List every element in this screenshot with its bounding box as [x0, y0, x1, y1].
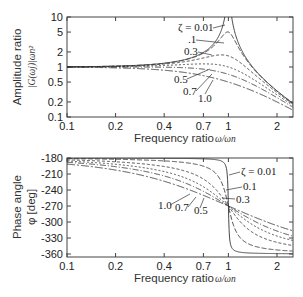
- x-tick-label: 2: [274, 120, 280, 132]
- x-tick-label: 0.7: [196, 260, 211, 272]
- svg-text:Frequency ratio: Frequency ratio: [134, 132, 214, 144]
- svg-text:Amplitude ratio: Amplitude ratio: [11, 29, 23, 106]
- annot-phase-zeta-07: 0.7: [175, 201, 189, 213]
- y-tick-label: 0.1: [48, 111, 63, 123]
- amplitude-plot: 0.10.20.40.7120.10.20.512510 ζ = 0.01 .1…: [11, 0, 293, 144]
- y-tick-label: 0.2: [48, 96, 63, 108]
- y-tick-label: -300: [41, 216, 63, 228]
- x-tick-label: 0.2: [108, 120, 123, 132]
- x-tick-label: 0.2: [108, 260, 123, 272]
- svg-text:ω/ωn: ω/ωn: [215, 134, 236, 144]
- annot-phase-zeta-001: ζ = 0.01: [241, 165, 277, 178]
- y-tick-label: 5: [57, 26, 63, 38]
- svg-text:Frequency ratio: Frequency ratio: [134, 272, 214, 284]
- annot-zeta-05: 0.5: [174, 73, 188, 85]
- phase-plot: 0.10.20.40.712-180-210-240-270-300-330-3…: [11, 152, 293, 284]
- x-tick-label: 0.4: [157, 120, 172, 132]
- amplitude-annotations: ζ = 0.01 .1 0.3 0.5 0.7 1.0: [174, 21, 225, 104]
- x-tick-label: 0.1: [59, 260, 74, 272]
- y-tick-label: 0.5: [48, 76, 63, 88]
- y-tick-label: 10: [51, 11, 63, 23]
- annot-zeta-03: 0.3: [184, 45, 198, 57]
- amplitude-ylabel: Amplitude ratio |G(ωj)|ωn²: [11, 29, 38, 106]
- x-tick-label: 0.7: [196, 120, 211, 132]
- x-tick-label: 2: [274, 260, 280, 272]
- y-tick-label: -360: [41, 248, 63, 260]
- y-tick-label: -180: [41, 152, 63, 164]
- x-tick-label: 0.4: [157, 260, 172, 272]
- y-tick-label: -270: [41, 200, 63, 212]
- annot-zeta-01: .1: [188, 33, 196, 45]
- y-tick-label: 2: [57, 46, 63, 58]
- svg-text:Phase angle: Phase angle: [11, 175, 23, 239]
- y-tick-label: 1: [57, 61, 63, 73]
- annot-phase-zeta-01: 0.1: [243, 180, 257, 192]
- x-tick-label: 1: [225, 120, 231, 132]
- figure: 0.10.20.40.7120.10.20.512510 ζ = 0.01 .1…: [0, 0, 303, 297]
- annot-phase-zeta-03: 0.3: [236, 193, 250, 205]
- y-tick-label: -240: [41, 184, 63, 196]
- svg-text:φ [deg]: φ [deg]: [25, 189, 37, 225]
- annot-zeta-07: 0.7: [183, 85, 197, 97]
- y-tick-label: -330: [41, 232, 63, 244]
- svg-text:ω/ωn: ω/ωn: [215, 274, 236, 284]
- phase-xlabel: Frequency ratio ω/ωn: [134, 272, 236, 284]
- x-tick-label: 1: [225, 260, 231, 272]
- y-tick-label: -210: [41, 168, 63, 180]
- phase-ylabel: Phase angle φ [deg]: [11, 175, 37, 239]
- amplitude-xlabel: Frequency ratio ω/ωn: [134, 132, 236, 144]
- svg-text:|G(ωj)|ωn²: |G(ωj)|ωn²: [27, 46, 38, 88]
